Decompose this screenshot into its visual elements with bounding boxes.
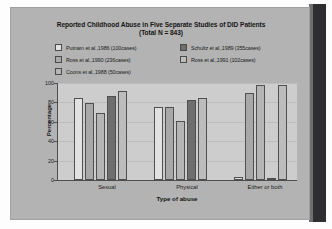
y-tick-mark-80 [54,102,57,103]
page-root: Reported Childhood Abuse in Five Separat… [0,0,332,229]
bar-sexual-schultz-1989[interactable] [107,96,116,180]
bar-sexual-ross-1990[interactable] [85,103,94,180]
legend-label-schultz-1989: Schultz et al.,1989 (355cases) [191,45,261,51]
y-tick-100: 100 [32,80,54,86]
legend-item-ross-1991[interactable]: Ross et al.,1991 (102cases) [180,56,255,63]
bar-physical-ross-1990[interactable] [165,107,174,181]
bar-either-schultz-1989[interactable] [267,178,276,180]
bar-either-ross-1990[interactable] [245,93,254,180]
x-tick-either-or-both: Either or both [225,184,305,190]
y-tick-80: 80 [32,99,54,105]
chart-title-block: Reported Childhood Abuse in Five Separat… [11,21,311,37]
scan-shadow-band [313,4,326,222]
y-tick-0: 0 [32,177,54,183]
legend-item-schultz-1989[interactable]: Schultz et al.,1989 (355cases) [180,44,261,51]
plot-area [57,83,297,181]
legend-item-coons-1988[interactable]: Coons et al.,1988 (50cases) [55,68,131,75]
x-axis-title: Type of abuse [57,195,297,202]
legend-label-putnam-1986: Putnam et al.,1986 (100cases) [66,45,137,51]
plot-wrapper: Percentage [57,83,297,181]
y-tick-60: 60 [32,119,54,125]
legend-label-ross-1991: Ross et al.,1991 (102cases) [191,57,255,63]
legend-swatch-putnam-1986 [55,44,62,51]
chart-legend: Putnam et al.,1986 (100cases) Ross et al… [55,44,295,80]
y-tick-mark-60 [54,122,57,123]
legend-swatch-ross-1990 [55,56,62,63]
chart-title: Reported Childhood Abuse in Five Separat… [11,21,311,29]
bar-physical-ross-1991[interactable] [198,98,207,180]
legend-swatch-schultz-1989 [180,44,187,51]
y-tick-mark-100 [54,83,57,84]
legend-item-putnam-1986[interactable]: Putnam et al.,1986 (100cases) [55,44,137,51]
legend-swatch-ross-1991 [180,56,187,63]
chart-panel: Reported Childhood Abuse in Five Separat… [10,7,310,220]
chart-subtitle: (Total N = 843) [11,29,311,37]
bar-sexual-ross-1991[interactable] [118,91,127,180]
y-tick-mark-0 [54,180,57,181]
bar-physical-schultz-1989[interactable] [187,100,196,180]
bar-either-coons-1988[interactable] [256,85,265,180]
legend-item-ross-1990[interactable]: Ross et al.,1990 (236cases) [55,56,130,63]
legend-label-coons-1988: Coons et al.,1988 (50cases) [66,69,131,75]
bar-either-putnam-1986[interactable] [234,177,243,180]
x-tick-physical: Physical [147,184,227,190]
y-tick-mark-20 [54,161,57,162]
bar-sexual-putnam-1986[interactable] [74,98,83,180]
bar-sexual-coons-1988[interactable] [96,113,105,180]
legend-label-ross-1990: Ross et al.,1990 (236cases) [66,57,130,63]
bar-physical-coons-1988[interactable] [176,121,185,180]
y-tick-mark-40 [54,141,57,142]
bar-either-ross-1991[interactable] [278,85,287,180]
y-tick-20: 20 [32,158,54,164]
legend-swatch-coons-1988 [55,68,62,75]
bar-physical-putnam-1986[interactable] [154,107,163,181]
y-tick-40: 40 [32,138,54,144]
x-tick-sexual: Sexual [67,184,147,190]
